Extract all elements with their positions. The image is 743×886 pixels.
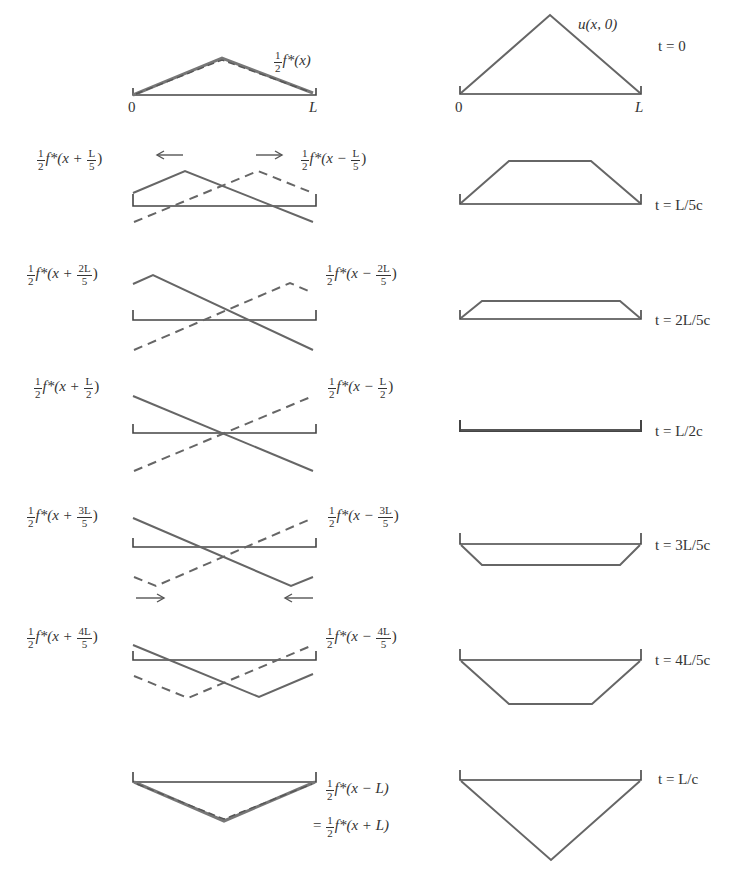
right-axis-end-label: L (635, 100, 643, 115)
time-label-4: t = 3L/5c (655, 537, 710, 554)
label-left-wave-row-1: 12f*(x + L5) (36, 148, 102, 172)
right-plot-t3 (460, 420, 641, 431)
label-half-f-star-x: 12f*(x) (273, 50, 311, 74)
time-label-1: t = L/5c (655, 197, 703, 214)
label-left-wave-row-5: 12f*(x + 4L5) (26, 626, 98, 650)
time-label-5: t = 4L/5c (655, 652, 710, 669)
left-row-3-plot (133, 396, 316, 471)
label-right-wave-row-1: 12f*(x − L5) (300, 148, 366, 172)
label-final-left-wave: = 12f*(x + L) (313, 815, 389, 839)
right-plot-t6 (460, 770, 641, 860)
right-plot-t5 (460, 649, 641, 704)
left-row-2-plot (133, 275, 316, 350)
label-right-wave-row-5: 12f*(x − 4L5) (325, 626, 397, 650)
label-right-wave-row-4: 12f*(x − 3L5) (327, 505, 399, 529)
left-row-6-plot (133, 772, 316, 821)
label-left-wave-row-2: 12f*(x + 2L5) (26, 263, 98, 287)
label-right-wave-row-3: 12f*(x − L2) (327, 376, 393, 400)
right-plot-t4 (460, 533, 641, 565)
label-left-wave-row-3: 12f*(x + L2) (33, 376, 99, 400)
time-label-3: t = L/2c (655, 423, 703, 440)
right-axis-start-label: 0 (455, 100, 463, 115)
label-u-x-0: u(x, 0) (578, 17, 617, 32)
left-row-1-plot (133, 151, 316, 222)
time-label-0: t = 0 (658, 38, 686, 55)
diagram-canvas (0, 0, 743, 886)
time-label-6: t = L/c (658, 771, 698, 788)
label-left-wave-row-4: 12f*(x + 3L5) (26, 505, 98, 529)
left-row-5-plot (133, 645, 316, 698)
left-axis-start-label: 0 (128, 100, 136, 115)
label-final-right-wave: 12f*(x − L) (325, 778, 389, 802)
left-row-4-plot (133, 518, 316, 602)
label-right-wave-row-2: 12f*(x − 2L5) (325, 263, 397, 287)
right-plot-t2 (460, 301, 641, 319)
right-plot-t1 (460, 161, 641, 204)
time-label-2: t = 2L/5c (655, 312, 710, 329)
left-axis-end-label: L (309, 100, 317, 115)
